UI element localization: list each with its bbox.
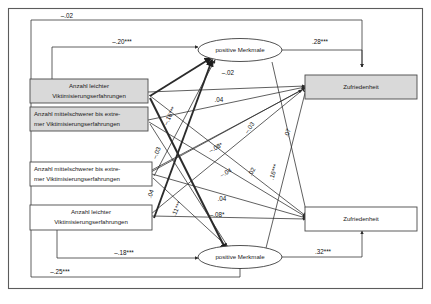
path-line-p18 bbox=[154, 60, 212, 218]
coef-neg16: –.16*** bbox=[162, 105, 177, 126]
node-t1-schwer[interactable]: Anzahl mittelschwerer bis extre- mer Vik… bbox=[30, 107, 148, 131]
coef-07: .07 bbox=[283, 127, 292, 138]
coef-neg02-mid: –.02 bbox=[222, 69, 235, 76]
coef-04-upper: .04 bbox=[215, 96, 224, 103]
coef-04-lower: .04 bbox=[218, 195, 227, 202]
coef-04-rot: .04 bbox=[145, 188, 155, 199]
node-t2-leicht[interactable]: Anzahl leichter Viktimisierungserfahrung… bbox=[30, 205, 152, 230]
node-t2-schwer-label-1: Anzahl mittelschwerer bis extre- bbox=[34, 165, 120, 172]
coef-neg18: –.18*** bbox=[114, 249, 134, 256]
coef-neg20: –.20*** bbox=[112, 38, 132, 45]
node-zuf-bottom-label: Zufriedenheit bbox=[343, 215, 379, 222]
coef-neg03: –.03 bbox=[243, 120, 256, 134]
coefficient-labels: –.02 –.20*** .28*** –.02 .04 –.03 .07 –.… bbox=[50, 12, 331, 275]
node-positive-merkmale-bottom[interactable]: positive Merkmale bbox=[198, 246, 282, 269]
path-diagram-figure: Anzahl leichter Viktimisierungserfahrung… bbox=[0, 0, 431, 304]
coef-neg08-lower: –.08* bbox=[210, 211, 225, 218]
path-diagram-canvas: Anzahl leichter Viktimisierungserfahrung… bbox=[0, 0, 431, 304]
path-line-p21 bbox=[272, 62, 307, 215]
node-t1-leicht[interactable]: Anzahl leichter Viktimisierungserfahrung… bbox=[30, 79, 148, 103]
coef-32: .32*** bbox=[315, 248, 332, 255]
node-t1-leicht-label-1: Anzahl leichter bbox=[69, 82, 109, 89]
node-t1-schwer-label-1: Anzahl mittelschwerer bis extre- bbox=[34, 110, 120, 117]
node-pm-top-label: positive Merkmale bbox=[215, 46, 265, 53]
node-zufriedenheit-top[interactable]: Zufriedenheit bbox=[305, 75, 417, 99]
node-t1-schwer-label-2: mer Viktimisierungserfahrungen bbox=[34, 120, 120, 127]
path-line-p20 bbox=[150, 98, 226, 250]
coef-neg02-top: –.02 bbox=[61, 12, 74, 19]
coef-neg04: –.04 bbox=[219, 166, 234, 178]
coef-neg03-rot: –.03 bbox=[151, 145, 162, 159]
node-zuf-top-label: Zufriedenheit bbox=[343, 83, 379, 90]
coef-28: .28*** bbox=[312, 38, 329, 45]
path-line-p02 bbox=[52, 47, 198, 79]
path-line-p17 bbox=[152, 90, 302, 170]
coef-11: .11*** bbox=[170, 200, 183, 218]
node-t2-schwer-label-2: mer Viktimisierungserfahrungen bbox=[34, 175, 120, 182]
path-line-p04 bbox=[148, 86, 305, 92]
path-lines bbox=[31, 20, 362, 277]
node-t2-leicht-label-2: Viktimisierungserfahrungen bbox=[54, 218, 128, 225]
coef-02: .02 bbox=[246, 166, 256, 177]
coef-neg25: –.25*** bbox=[50, 268, 70, 275]
node-positive-merkmale-top[interactable]: positive Merkmale bbox=[198, 39, 282, 62]
node-t1-leicht-label-2: Viktimisierungserfahrungen bbox=[52, 92, 126, 99]
node-t2-leicht-label-1: Anzahl leichter bbox=[71, 208, 111, 215]
node-t2-schwer[interactable]: Anzahl mittelschwerer bis extre- mer Vik… bbox=[30, 162, 152, 186]
node-zufriedenheit-bottom[interactable]: Zufriedenheit bbox=[305, 207, 417, 231]
coef-16: .16*** bbox=[268, 163, 280, 181]
path-line-p03 bbox=[281, 50, 362, 67]
node-pm-bottom-label: positive Merkmale bbox=[215, 253, 265, 260]
